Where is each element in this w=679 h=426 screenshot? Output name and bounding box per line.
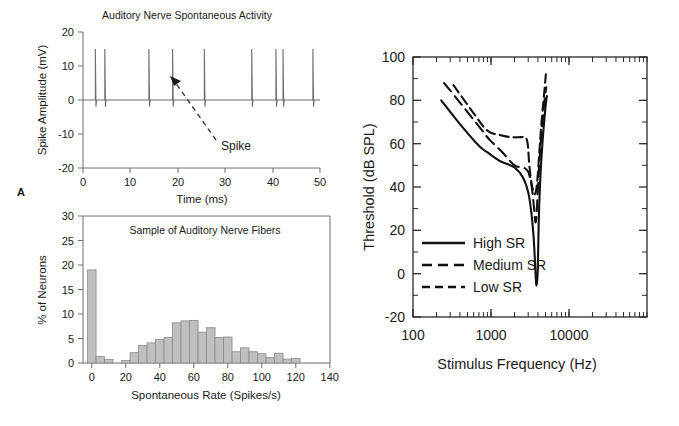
- panel-b-xtick-60: 60: [188, 371, 200, 383]
- histogram-bar: [275, 353, 284, 363]
- panel-c-ytick-60: 60: [389, 136, 405, 152]
- histogram-bar: [266, 358, 275, 363]
- panel-c-curve-series: [441, 74, 547, 285]
- histogram-bar: [249, 352, 257, 363]
- histogram-bar: [130, 353, 139, 363]
- panel-b-xtick-20: 20: [120, 371, 132, 383]
- panel-a-x-axis-title: Time (ms): [176, 193, 227, 205]
- panel-c-ytick-20: 20: [389, 222, 405, 238]
- panel-c-ytick-40: 40: [389, 179, 405, 195]
- panel-a-spike-callout: Spike: [170, 76, 251, 153]
- panel-a-xtick-30: 30: [219, 176, 231, 188]
- histogram-bar: [181, 321, 190, 363]
- panel-c-svg: 100 80 60 40 20 0 -20 100 1000 10000 Sti…: [352, 0, 679, 426]
- panel-b-xtick-80: 80: [222, 371, 234, 383]
- histogram-bar: [88, 270, 97, 363]
- panel-b-ytick-30: 30: [62, 210, 74, 222]
- legend-label-high-sr: High SR: [473, 235, 525, 251]
- histogram-bar: [207, 328, 216, 363]
- panel-b-xtick-0: 0: [89, 371, 95, 383]
- spike-event: [276, 49, 277, 107]
- panel-b-bar-series: [88, 270, 300, 363]
- panel-c-ytick-80: 80: [389, 92, 405, 108]
- panel-c-tuning-curves: 100 80 60 40 20 0 -20 100 1000 10000 Sti…: [352, 0, 679, 426]
- panel-c-xtick-100: 100: [401, 327, 425, 343]
- panel-c-x-axis-title: Stimulus Frequency (Hz): [437, 356, 597, 372]
- panel-b-xtick-40: 40: [154, 371, 166, 383]
- panel-a-ytick-m20: -20: [58, 162, 74, 174]
- panel-a-y-ticks: [78, 32, 83, 168]
- panel-a-xtick-20: 20: [172, 176, 184, 188]
- spike-callout-label: Spike: [221, 139, 251, 153]
- panel-b-ytick-15: 15: [62, 284, 74, 296]
- spike-event: [95, 49, 96, 107]
- histogram-bar: [139, 345, 148, 363]
- histogram-bar: [96, 357, 105, 363]
- histogram-bar: [156, 339, 165, 363]
- panel-b-y-axis-title: % of Neurons: [36, 255, 48, 325]
- histogram-bar: [164, 338, 173, 363]
- panel-a-x-ticks: [83, 168, 320, 173]
- panel-b-ytick-20: 20: [62, 259, 74, 271]
- panel-a-spike-series: [95, 49, 314, 107]
- panel-a-xtick-50: 50: [314, 176, 326, 188]
- panel-a-title: Auditory Nerve Spontaneous Activity: [102, 9, 273, 21]
- histogram-bar: [105, 360, 114, 363]
- panel-a-y-axis-title: Spike Amplitude (mV): [36, 45, 48, 156]
- panel-a-ytick-20: 20: [62, 26, 74, 38]
- panel-c-xtick-10000: 10000: [550, 327, 589, 343]
- panel-a-ytick-m10: -10: [58, 128, 74, 140]
- spike-event: [313, 49, 314, 107]
- panel-b-xtick-120: 120: [287, 371, 305, 383]
- legend-label-low-sr: Low SR: [473, 279, 522, 295]
- panel-c-xtick-1000: 1000: [475, 327, 506, 343]
- histogram-bar: [190, 320, 199, 363]
- panel-a-ytick-10: 10: [62, 60, 74, 72]
- histogram-bar: [173, 323, 182, 363]
- panel-b-xtick-140: 140: [321, 371, 339, 383]
- histogram-bar: [198, 332, 207, 363]
- histogram-bar: [215, 338, 224, 363]
- spike-event: [204, 49, 205, 107]
- panel-b-ytick-25: 25: [62, 235, 74, 247]
- histogram-bar: [241, 348, 250, 363]
- legend-label-medium-sr: Medium SR: [473, 257, 546, 273]
- panel-b-x-axis-title: Spontaneous Rate (Spikes/s): [131, 389, 281, 401]
- panel-c-ytick-m20: -20: [385, 309, 405, 325]
- histogram-bar: [292, 359, 301, 363]
- panel-c-y-major-ticks: [413, 57, 647, 317]
- panel-a-svg: Auditory Nerve Spontaneous Activity 20 1…: [0, 0, 350, 212]
- panel-a-xtick-10: 10: [124, 176, 136, 188]
- histogram-bar: [147, 343, 156, 363]
- panel-b-ytick-5: 5: [68, 333, 74, 345]
- panel-c-ytick-100: 100: [382, 49, 406, 65]
- panel-letter-a: A: [17, 186, 25, 198]
- panel-b-histogram: Sample of Auditory Nerve Fibers 30 25 20…: [0, 205, 350, 426]
- spike-callout-leader-line: [175, 82, 216, 140]
- panel-c-legend: High SR Medium SR Low SR: [422, 235, 546, 295]
- figure-root: Auditory Nerve Spontaneous Activity 20 1…: [0, 0, 679, 426]
- spike-event: [105, 49, 106, 107]
- panel-b-svg: Sample of Auditory Nerve Fibers 30 25 20…: [0, 205, 350, 426]
- histogram-bar: [232, 352, 241, 363]
- panel-a-xtick-40: 40: [267, 176, 279, 188]
- histogram-bar: [122, 361, 131, 363]
- panel-b-xtick-100: 100: [253, 371, 271, 383]
- histogram-bar: [258, 354, 267, 363]
- panel-c-y-axis-title: Threshold (dB SPL): [361, 123, 377, 250]
- panel-b-x-ticks: [92, 363, 330, 368]
- panel-b-ytick-0: 0: [68, 357, 74, 369]
- panel-c-x-ticks: [413, 57, 647, 317]
- histogram-bar: [224, 337, 233, 363]
- panel-b-y-ticks: [78, 216, 83, 363]
- panel-b-ytick-10: 10: [62, 308, 74, 320]
- spike-event: [149, 49, 150, 107]
- panel-b-title: Sample of Auditory Nerve Fibers: [129, 224, 280, 236]
- panel-c-ytick-0: 0: [397, 266, 405, 282]
- spike-event: [283, 49, 284, 107]
- spike-event: [252, 49, 253, 107]
- histogram-bar: [283, 359, 292, 363]
- panel-a-spike-train: Auditory Nerve Spontaneous Activity 20 1…: [0, 0, 350, 212]
- spike-callout-arrowhead-icon: [170, 76, 181, 86]
- panel-a-ytick-0: 0: [68, 94, 74, 106]
